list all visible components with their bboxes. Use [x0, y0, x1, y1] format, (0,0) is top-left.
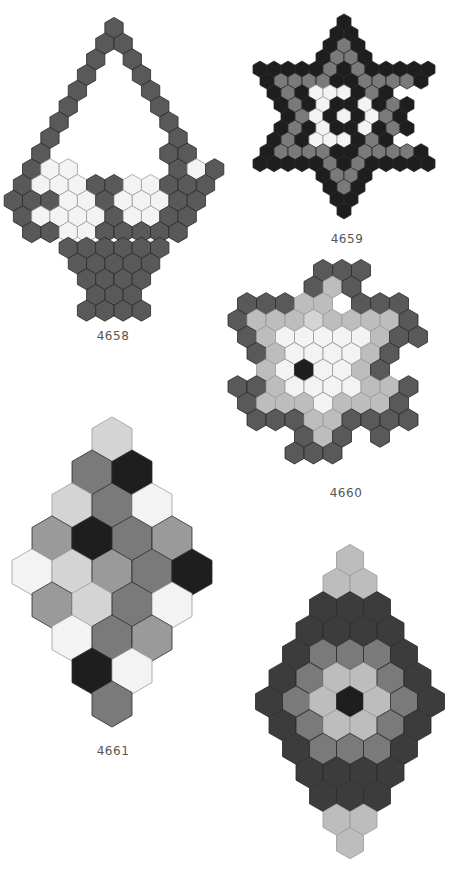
hex-pattern-4662 — [256, 544, 445, 858]
hexagon-tile — [379, 156, 393, 172]
hexagon-tile — [414, 73, 428, 89]
hex-pattern-4660 — [228, 259, 428, 464]
hexagon-tile — [400, 73, 414, 89]
hexagon-tile — [337, 203, 351, 219]
hexagon-tile — [400, 120, 414, 136]
hexagon-tile — [253, 156, 267, 172]
hex-pattern-4659 — [253, 14, 435, 219]
hexagon-tile — [267, 156, 281, 172]
pattern-label-4659: 4659 — [331, 232, 364, 246]
hexagon-tile — [407, 156, 421, 172]
hexagon-tile — [281, 156, 295, 172]
hexagon-patterns-canvas — [0, 0, 454, 878]
pattern-label-4660: 4660 — [330, 486, 363, 500]
hex-pattern-4658 — [4, 17, 224, 321]
hexagon-tile — [393, 156, 407, 172]
hex-pattern-4661 — [12, 417, 212, 727]
hexagon-tile — [295, 156, 309, 172]
hexagon-tile — [421, 156, 435, 172]
pattern-label-4661: 4661 — [97, 744, 130, 758]
pattern-label-4658: 4658 — [97, 329, 130, 343]
